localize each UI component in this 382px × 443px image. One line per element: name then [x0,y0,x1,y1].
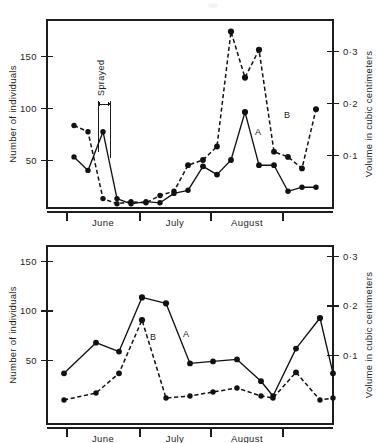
ytick-label-100-bottom: 100 [20,305,37,316]
data-point [214,172,220,178]
data-point [256,162,262,168]
figure-root: 150 100 50 0·3 0·2 0·1 Number of individ… [0,0,382,443]
series-label-a-top: A [255,127,262,137]
data-point [234,357,240,363]
data-point [228,157,234,163]
data-point [116,349,122,355]
y2tick-label-03-top: 0·3 [343,46,358,57]
data-point [299,185,304,190]
y2tick-label-02-bottom: 0·2 [343,300,358,311]
data-point [242,75,248,81]
y2tick-label-01-bottom: 0·1 [343,350,358,361]
data-point [93,390,98,395]
month-label-august-top: August [231,217,263,228]
data-point [128,201,133,206]
month-label-june-bottom: June [92,433,114,443]
data-point [242,109,248,115]
data-point [171,191,176,196]
sprayed-arrow-icon [98,102,110,106]
chart-panel-bottom: 150 100 50 0·3 0·2 0·1 Number of individ… [0,230,382,443]
data-point [210,389,215,394]
chart-panel-top: 150 100 50 0·3 0·2 0·1 Number of individ… [0,0,382,230]
series-label-b-bottom: B [150,332,157,342]
data-point [317,397,322,402]
data-point [256,47,262,53]
data-point [163,395,168,400]
chart-svg-top: 150 100 50 0·3 0·2 0·1 Number of individ… [0,0,382,230]
data-point [313,106,319,112]
data-point [228,29,234,35]
data-point [143,199,148,204]
data-point [187,393,192,398]
ytick-label-50-bottom: 50 [26,355,37,366]
series-label-a-bottom: A [183,329,190,339]
data-point [313,185,318,190]
data-point [139,317,145,323]
y2tick-label-01-top: 0·1 [343,150,358,161]
data-point [200,157,206,163]
data-point [71,123,76,128]
data-point [85,129,90,134]
data-point [210,359,216,365]
data-point [114,196,119,201]
data-point [116,370,122,376]
month-label-july-bottom: July [166,433,185,443]
ytick-label-150-top: 150 [20,51,37,62]
ytick-label-150-bottom: 150 [20,256,37,267]
data-point [61,397,66,402]
data-point [157,200,162,205]
data-point [185,162,191,168]
data-point [330,395,335,400]
data-point [93,340,99,346]
data-point [100,196,105,201]
month-label-june-top: June [92,217,114,228]
data-point [214,144,220,150]
data-point [330,370,336,376]
y-axis-title-top: Number of individuals [7,65,18,163]
data-point [187,361,193,367]
data-point [61,370,67,376]
data-point [285,189,290,194]
y2-axis-title-top: Volume in cubic centimeters [363,51,374,177]
ytick-label-100-top: 100 [20,103,37,114]
data-point [163,300,169,306]
month-label-july-top: July [166,217,185,228]
data-point [85,168,90,173]
data-point [200,163,206,169]
data-point [317,315,323,321]
data-point [293,346,299,352]
data-point [71,154,76,159]
ytick-label-50-top: 50 [26,155,37,166]
y-axis-title-bottom: Number of individuals [7,286,18,384]
data-point [299,166,305,172]
data-point [271,149,277,155]
y2tick-label-02-top: 0·2 [343,98,358,109]
data-point [100,129,105,134]
data-point [234,385,239,390]
data-point [114,201,119,206]
data-point [258,378,264,384]
y2tick-label-03-bottom: 0·3 [343,251,358,262]
data-point [285,154,291,160]
data-point [270,395,275,400]
series-a-line-bottom [64,297,333,396]
sprayed-label: Sprayed [96,60,106,96]
y2-axis-title-bottom: Volume in cubic centimeters [363,272,374,398]
data-point [157,193,162,198]
data-point [293,369,299,375]
data-point [258,393,263,398]
data-point [185,188,190,193]
data-point [139,294,145,300]
month-label-august-bottom: August [231,433,263,443]
chart-svg-bottom: 150 100 50 0·3 0·2 0·1 Number of individ… [0,230,382,443]
series-b-line-bottom [64,320,333,400]
data-point [271,162,277,168]
series-label-b-top: B [284,110,291,120]
